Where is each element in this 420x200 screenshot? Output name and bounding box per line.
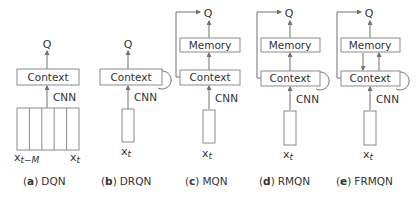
input-x-t: xt bbox=[70, 151, 81, 165]
frame-box bbox=[284, 111, 296, 145]
cnn-label: CNN bbox=[376, 93, 399, 105]
caption-c: (c)MQN bbox=[185, 175, 228, 187]
caption-d: (d)RMQN bbox=[259, 175, 310, 187]
q-label: Q bbox=[365, 7, 374, 20]
cnn-label: CNN bbox=[215, 92, 238, 104]
panel-drqn: Q Context CNN xt bbox=[100, 38, 171, 159]
q-label: Q bbox=[124, 38, 133, 51]
memory-label: Memory bbox=[269, 39, 312, 51]
memory-label: Memory bbox=[189, 39, 232, 51]
cnn-label: CNN bbox=[53, 91, 76, 103]
input-x-t: xt bbox=[283, 148, 294, 162]
context-label: Context bbox=[27, 71, 68, 83]
frame-stack bbox=[17, 108, 79, 150]
input-x-t: xt bbox=[202, 147, 213, 161]
panel-frmqn: Q Memory Context CNN xt bbox=[337, 7, 409, 162]
caption-a: (a)DQN bbox=[23, 175, 66, 187]
context-label: Context bbox=[349, 72, 390, 84]
memory-label: Memory bbox=[349, 39, 392, 51]
panel-mqn: Q Memory Context CNN xt bbox=[176, 7, 240, 161]
panel-rmqn: Q Memory Context CNN xt bbox=[257, 7, 329, 162]
cnn-label: CNN bbox=[296, 93, 319, 105]
frame-box bbox=[203, 110, 215, 143]
input-x-t-minus-m: xt−M bbox=[14, 151, 40, 165]
caption-e: (e)FRMQN bbox=[336, 175, 393, 187]
input-x-t: xt bbox=[121, 145, 132, 159]
q-label: Q bbox=[204, 7, 213, 20]
input-x-t: xt bbox=[363, 148, 374, 162]
context-label: Context bbox=[189, 71, 230, 83]
frame-box bbox=[122, 109, 134, 142]
caption-b: (b)DRQN bbox=[101, 175, 151, 187]
frame-box bbox=[364, 111, 376, 145]
captions: (a)DQN (b)DRQN (c)MQN (d)RMQN (e)FRMQN bbox=[23, 175, 393, 187]
panel-dqn: Q Context CNN xt−M xt bbox=[14, 38, 81, 165]
q-label: Q bbox=[43, 38, 52, 51]
context-label: Context bbox=[269, 72, 310, 84]
context-label: Context bbox=[110, 71, 151, 83]
cnn-label: CNN bbox=[134, 91, 157, 103]
q-label: Q bbox=[285, 7, 294, 20]
architecture-diagram: Q Context CNN xt−M xt Q Context CNN xt Q… bbox=[0, 0, 420, 200]
